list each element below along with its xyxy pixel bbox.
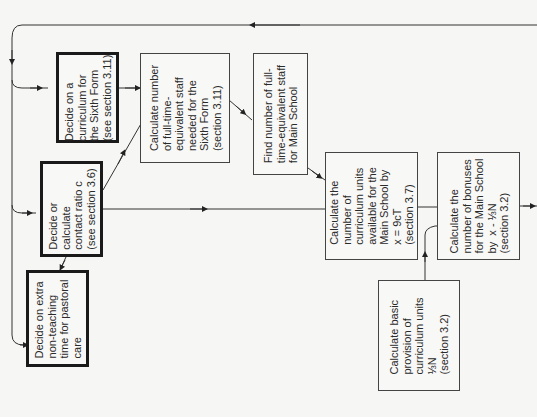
box-bonuses: Calculate the number of bonuses for the … <box>437 152 520 260</box>
box-pastoral-care: Decide on extra non-teaching time for pa… <box>26 270 89 367</box>
box-label: Calculate number of full-time- equivalen… <box>148 65 223 151</box>
box-label: Calculate the number of bonuses for the … <box>447 159 510 254</box>
box-contact-ratio: Decide or calculate contact ratio c (see… <box>40 161 103 257</box>
box-curriculum-units: Calculate the number of curriculum units… <box>325 152 418 260</box>
box-label: Calculate the number of curriculum units… <box>328 167 416 245</box>
box-label: Find number of full- time-equivalent sta… <box>262 65 300 163</box>
box-label: Calculate basic provision of curriculum … <box>388 297 451 374</box>
box-label: Decide on a curriculum for the Sixth For… <box>63 54 113 141</box>
box-sixth-form-staff: Calculate number of full-time- equivalen… <box>140 53 230 163</box>
box-label: Decide on extra non-teaching time for pa… <box>33 279 83 358</box>
box-main-school-staff: Find number of full- time-equivalent sta… <box>253 53 308 175</box>
box-sixth-form-curriculum: Decide on a curriculum for the Sixth For… <box>56 52 119 143</box>
box-label: Decide or calculate contact ratio c (see… <box>47 168 97 249</box>
box-basic-provision: Calculate basic provision of curriculum … <box>378 280 460 391</box>
